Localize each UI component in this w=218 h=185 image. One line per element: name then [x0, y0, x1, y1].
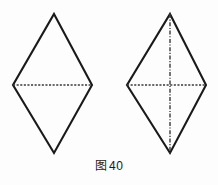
- figure-caption: 图40: [0, 158, 218, 174]
- left-rhombus-outline: [13, 14, 92, 153]
- right-rhombus-group: [127, 14, 206, 153]
- figure-caption-number: 40: [107, 159, 123, 173]
- figure-caption-label: 图: [95, 159, 108, 173]
- figure-container: 图40: [0, 0, 218, 185]
- right-rhombus-outline: [127, 14, 206, 153]
- left-rhombus-group: [13, 14, 92, 153]
